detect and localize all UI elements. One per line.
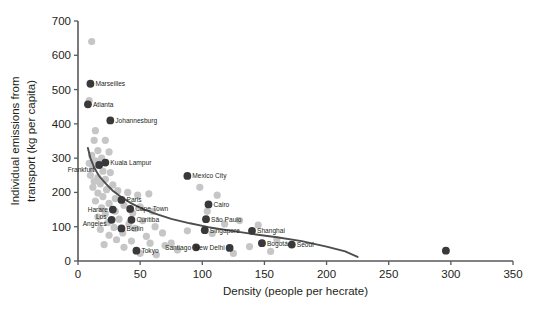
data-point-unlabeled [91,137,98,144]
point-label: Cairo [214,201,230,208]
data-point-unlabeled [246,243,253,250]
data-point-labeled [108,216,116,224]
y-tick-label: 0 [65,255,71,267]
x-tick-label: 250 [379,268,398,280]
data-point-unlabeled [146,240,153,247]
point-label: Berlin [127,225,144,232]
data-point-labeled [201,226,209,234]
x-tick-label: 150 [255,268,274,280]
x-tick-label: 200 [317,268,336,280]
data-point-labeled [87,80,95,88]
data-point-unlabeled [128,238,135,245]
x-tick-label: 100 [193,268,212,280]
data-point-unlabeled [105,148,112,155]
point-label: LosAngeles [83,213,108,229]
data-point-unlabeled [105,232,112,239]
x-tick-label: 300 [441,268,460,280]
data-point-labeled [118,196,126,204]
point-label: Cape Town [135,205,168,213]
data-point-unlabeled [267,248,274,255]
y-tick-label: 500 [52,84,71,96]
data-point-unlabeled [196,184,203,191]
data-point-labeled [95,161,103,169]
data-point-unlabeled [115,216,122,223]
data-point-unlabeled [99,193,106,200]
data-point-unlabeled [184,227,191,234]
point-label: Frankfurt [68,166,95,173]
x-axis-title: Density (people per hecrate) [223,285,368,297]
x-tick-label: 0 [75,268,81,280]
data-point-labeled [202,215,210,223]
data-point-labeled [118,225,126,233]
data-point-unlabeled [151,223,158,230]
data-point-labeled [288,241,296,249]
data-point-labeled [205,201,213,209]
x-tick-label: 50 [134,268,147,280]
data-point-labeled [133,247,141,255]
data-point-labeled [84,100,92,108]
chart-figure: 0100200300400500600700050100150200250300… [0,0,543,316]
y-tick-label: 200 [52,186,71,198]
data-point-unlabeled [159,229,166,236]
data-point-labeled [106,117,114,125]
x-tick-label: 350 [503,268,522,280]
y-tick-label: 700 [52,15,71,27]
y-tick-label: 400 [52,118,71,130]
data-point-unlabeled [89,184,96,191]
point-label: Shanghai [257,227,285,235]
data-point-unlabeled [101,241,108,248]
data-point-labeled [183,172,191,180]
data-point-labeled [248,227,256,235]
point-label: Johannesburg [115,117,157,125]
point-label: Bogotá [267,240,288,248]
data-point-unlabeled [94,147,101,154]
scatter-plot: 0100200300400500600700050100150200250300… [0,0,543,316]
y-tick-label: 600 [52,49,71,61]
data-point-unlabeled [143,233,150,240]
data-point-labeled [258,239,266,247]
point-label: São Paulo [211,216,242,223]
y-axis-title: Individual emissions fromtransport (kg p… [9,76,37,205]
data-point-labeled [126,205,134,213]
data-point-labeled [226,244,234,252]
data-point-unlabeled [120,244,127,251]
point-label: Paris [127,196,143,203]
data-point-unlabeled [107,169,114,176]
data-point-unlabeled [110,224,117,231]
point-label: Marseilles [95,80,125,87]
point-label: Tokyo [141,247,159,255]
data-point-unlabeled [92,197,99,204]
point-label: Kuala Lampur [110,159,152,167]
point-label: Santiago [165,244,191,252]
point-label: Curitiba [136,216,159,223]
data-point-labeled [442,247,450,255]
point-label: Singapore [210,227,240,235]
data-point-unlabeled [88,38,95,45]
data-point-unlabeled [214,192,221,199]
point-label: Seoul [297,241,314,248]
data-point-unlabeled [124,189,131,196]
point-label: Mexico City [192,172,227,180]
data-point-unlabeled [92,127,99,134]
data-point-labeled [128,216,136,224]
data-point-unlabeled [145,190,152,197]
data-point-unlabeled [102,137,109,144]
point-label: New Delhi [195,244,226,251]
y-tick-label: 100 [52,221,71,233]
y-tick-label: 300 [52,152,71,164]
data-point-unlabeled [204,208,211,215]
point-label: Atlanta [93,101,114,108]
data-point-unlabeled [113,236,120,243]
data-point-labeled [109,206,117,214]
